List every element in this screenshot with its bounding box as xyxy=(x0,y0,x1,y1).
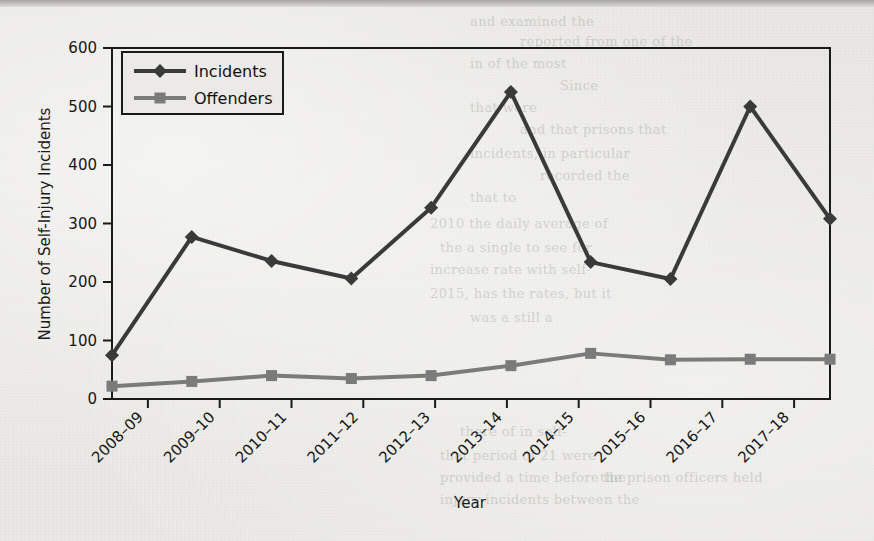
diamond-marker xyxy=(584,255,598,269)
x-tick-label: 2011–12 xyxy=(304,408,363,467)
series-offenders xyxy=(107,348,836,392)
x-tick-label: 2014–15 xyxy=(519,408,578,467)
y-tick-label: 0 xyxy=(87,390,97,408)
legend-label: Incidents xyxy=(194,62,267,81)
square-marker xyxy=(665,354,676,365)
square-marker xyxy=(585,348,596,359)
x-tick-label: 2010–11 xyxy=(232,408,291,467)
x-axis-title: Year xyxy=(453,494,487,512)
x-tick-label: 2012–13 xyxy=(375,408,434,467)
square-marker xyxy=(266,370,277,381)
diamond-marker xyxy=(265,254,279,268)
y-tick-label: 300 xyxy=(68,215,97,233)
x-tick-label: 2017–18 xyxy=(734,408,793,467)
y-tick-label: 400 xyxy=(68,156,97,174)
x-tick-label: 2008–09 xyxy=(88,408,147,467)
square-marker xyxy=(107,381,118,392)
chart-legend: IncidentsOffenders xyxy=(122,52,283,114)
series-line xyxy=(112,353,830,386)
square-marker xyxy=(825,354,836,365)
diamond-marker xyxy=(663,272,677,286)
y-tick-label: 100 xyxy=(68,332,97,350)
y-axis-title: Number of Self-Injury Incidents xyxy=(36,107,54,340)
y-axis-ticks: 0100200300400500600 xyxy=(68,39,112,408)
x-tick-label: 2016–17 xyxy=(663,408,722,467)
y-tick-label: 600 xyxy=(68,39,97,57)
y-tick-label: 200 xyxy=(68,273,97,291)
square-marker xyxy=(186,376,197,387)
square-marker xyxy=(745,354,756,365)
square-marker xyxy=(346,373,357,384)
x-tick-label: 2015–16 xyxy=(591,408,650,467)
self-injury-line-chart: 0100200300400500600 2008–092009–102010–1… xyxy=(0,0,874,541)
series-incidents xyxy=(105,85,837,362)
y-tick-label: 500 xyxy=(68,98,97,116)
square-marker xyxy=(505,360,516,371)
x-tick-label: 2013–14 xyxy=(447,408,506,467)
series-line xyxy=(112,92,830,355)
x-axis-ticks: 2008–092009–102010–112011–122012–132013–… xyxy=(88,399,794,467)
square-marker xyxy=(426,370,437,381)
x-tick-label: 2009–10 xyxy=(160,408,219,467)
legend-label: Offenders xyxy=(194,89,273,108)
square-marker xyxy=(155,93,166,104)
